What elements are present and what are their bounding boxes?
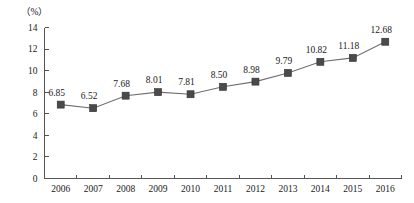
- data-point-label: 8.01: [146, 75, 163, 85]
- unit-label-percent: （%）: [21, 6, 49, 17]
- data-point-label: 8.50: [211, 70, 228, 80]
- x-axis-tick-label: 2009: [149, 184, 168, 194]
- y-axis-tick-label: 14: [28, 23, 38, 33]
- data-point-marker: [284, 69, 291, 76]
- x-axis-tick-label: 2013: [278, 184, 297, 194]
- data-point-marker: [122, 92, 129, 99]
- data-point-marker: [317, 58, 324, 65]
- x-axis-tick-label: 2006: [51, 184, 70, 194]
- data-point-label: 6.52: [81, 91, 98, 101]
- x-axis-tick-label: 2010: [181, 184, 200, 194]
- data-point-label: 10.82: [306, 45, 328, 55]
- y-axis-tick-label: 10: [28, 66, 38, 76]
- x-axis-tick-labels: 2006200720082009201020112012201320142015…: [51, 184, 395, 194]
- data-point-marker: [155, 89, 162, 96]
- x-axis-tick-label: 2008: [116, 184, 135, 194]
- line-chart: 02468101214 2006200720082009201020112012…: [0, 0, 414, 203]
- x-axis-tick-label: 2007: [84, 184, 103, 194]
- y-axis-tick-label: 4: [33, 131, 38, 141]
- data-point-label: 9.79: [276, 56, 293, 66]
- data-point-label: 7.68: [113, 79, 130, 89]
- data-point-label: 11.18: [338, 41, 359, 51]
- y-axis-tick-label: 12: [28, 44, 38, 54]
- data-point-marker: [187, 91, 194, 98]
- y-axis-tick-labels: 02468101214: [28, 23, 38, 184]
- y-axis-tick-label: 0: [33, 174, 38, 184]
- chart-canvas: 02468101214 2006200720082009201020112012…: [0, 0, 414, 203]
- y-axis-tick-label: 2: [33, 152, 38, 162]
- data-point-marker: [90, 105, 97, 112]
- data-point-marker: [382, 38, 389, 45]
- y-axis-unit-label: （%）: [21, 6, 49, 17]
- y-axis-tick-label: 8: [33, 88, 38, 98]
- data-point-label: 6.85: [48, 88, 65, 98]
- y-axis-tick-label: 6: [33, 109, 38, 119]
- x-axis-tick-label: 2012: [246, 184, 265, 194]
- data-point-label: 8.98: [243, 65, 260, 75]
- data-point-marker: [349, 54, 356, 61]
- data-point-label: 7.81: [178, 77, 195, 87]
- x-axis-tick-label: 2016: [376, 184, 395, 194]
- data-point-label: 12.68: [371, 25, 393, 35]
- x-axis-tick-label: 2014: [311, 184, 330, 194]
- data-point-marker: [252, 78, 259, 85]
- x-axis-tick-label: 2011: [214, 184, 233, 194]
- x-axis-tick-label: 2015: [343, 184, 362, 194]
- data-point-marker: [220, 83, 227, 90]
- data-point-marker: [57, 101, 64, 108]
- x-axis-ticks: [77, 175, 402, 179]
